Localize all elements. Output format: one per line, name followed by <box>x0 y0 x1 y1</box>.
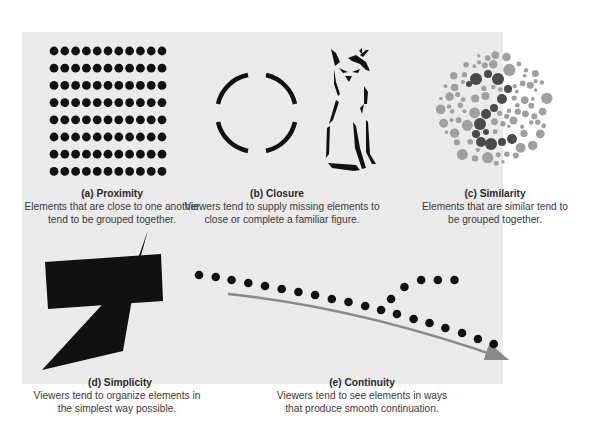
caption-simplicity: (d) Simplicity <box>30 376 210 389</box>
caption-desc: Elements that are close to one another <box>22 200 202 213</box>
caption-continuity: (e) Continuity Viewers tend to see eleme… <box>272 376 452 415</box>
caption-desc: tend to be grouped together. <box>22 213 202 226</box>
caption-desc: Viewers tend to organize elements in <box>22 389 212 402</box>
caption-similarity: (c) Similarity Elements that are similar… <box>420 187 570 226</box>
closure-wolf-outline <box>326 44 406 174</box>
caption-title: (d) Simplicity <box>30 376 210 389</box>
caption-desc: that produce smooth continuation. <box>272 402 452 415</box>
caption-proximity: (a) Proximity Elements that are close to… <box>22 187 202 226</box>
caption-desc: the simplest way possible. <box>22 402 212 415</box>
caption-title: (c) Similarity <box>420 187 570 200</box>
proximity-dot-grid <box>49 46 173 176</box>
caption-closure: (b) Closure <box>202 187 352 200</box>
caption-closure-desc: Viewers tend to supply missing elements … <box>177 200 387 226</box>
similarity-color-plate <box>436 44 556 174</box>
caption-desc: Viewers tend to supply missing elements … <box>177 200 387 213</box>
caption-simplicity-desc: Viewers tend to organize elements in the… <box>22 389 212 415</box>
caption-desc: close or complete a familiar figure. <box>177 213 387 226</box>
continuity-dots <box>190 230 510 360</box>
gestalt-principles-figure: (a) Proximity Elements that are close to… <box>22 32 503 384</box>
closure-broken-circle <box>212 68 302 158</box>
simplicity-shapes <box>22 230 202 370</box>
caption-title: (e) Continuity <box>272 376 452 389</box>
caption-desc: be grouped together. <box>420 213 570 226</box>
caption-title: (b) Closure <box>202 187 352 200</box>
caption-title: (a) Proximity <box>22 187 202 200</box>
caption-desc: Elements that are similar tend to <box>420 200 570 213</box>
caption-desc: Viewers tend to see elements in ways <box>272 389 452 402</box>
